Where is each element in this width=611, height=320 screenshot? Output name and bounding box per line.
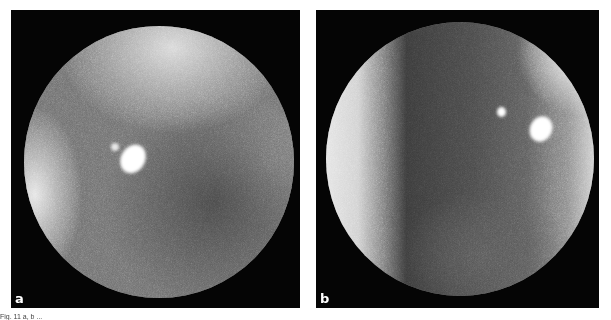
panel-label-b: b — [320, 292, 329, 305]
panel-label-a: a — [15, 292, 24, 305]
bright-dot — [111, 143, 119, 151]
circular-image-a — [24, 26, 294, 298]
bright-dot — [497, 107, 506, 117]
circular-image-b — [326, 22, 594, 296]
figure-panel-b: b — [316, 10, 599, 308]
figure-caption: Fig. 11 a, b ... — [0, 313, 42, 320]
figure-panel-a: a — [11, 10, 300, 308]
